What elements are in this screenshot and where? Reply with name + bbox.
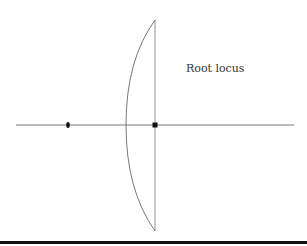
locus-curve	[126, 20, 155, 231]
diagram-title: Root locus	[186, 62, 244, 75]
root-locus-diagram	[0, 0, 307, 246]
pole-marker-origin	[153, 123, 158, 128]
pole-marker-left	[66, 122, 70, 128]
bottom-rule	[0, 241, 307, 244]
